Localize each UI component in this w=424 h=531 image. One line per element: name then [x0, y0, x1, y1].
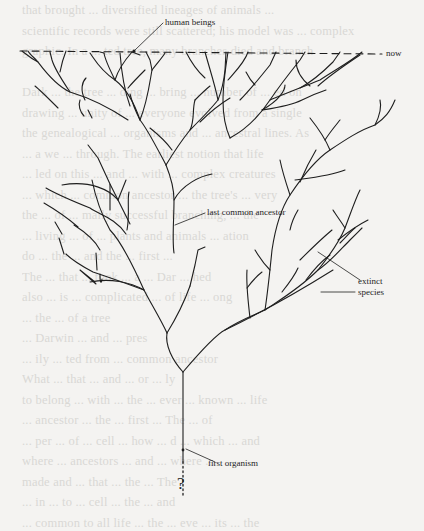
lca-trunk	[166, 165, 174, 253]
unknown-origin-question-mark: ?	[177, 474, 185, 494]
label-now: now	[386, 48, 402, 58]
bleed-line: ... common to all life ... the ... eve .…	[22, 513, 424, 531]
label-last-common-ancestor: last common ancestor	[207, 207, 285, 217]
human-beings-pointer	[134, 23, 163, 51]
right-stem	[183, 270, 333, 372]
label-human-beings: human beings	[165, 17, 215, 27]
label-extinct: extinct	[358, 276, 383, 286]
human-lineage	[115, 52, 132, 80]
now-line	[20, 51, 382, 54]
label-species: species	[358, 287, 384, 297]
left-stem	[167, 333, 183, 372]
first-organism-marker	[182, 449, 185, 452]
label-first-organism: first organism	[208, 458, 258, 468]
last-common-ancestor-pointer	[175, 213, 205, 225]
